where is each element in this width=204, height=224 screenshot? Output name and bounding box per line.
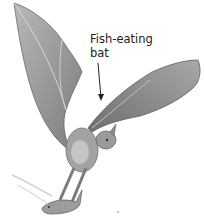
label-arrow — [98, 63, 101, 98]
right-wing — [88, 60, 200, 132]
left-wing — [14, 3, 82, 150]
bat-label: Fish-eating bat — [90, 32, 160, 60]
illustration: Fish-eating bat — [0, 0, 204, 224]
label-line-1: Fish-eating — [90, 32, 160, 46]
bat-legs — [60, 168, 86, 202]
label-line-2: bat — [90, 46, 160, 60]
